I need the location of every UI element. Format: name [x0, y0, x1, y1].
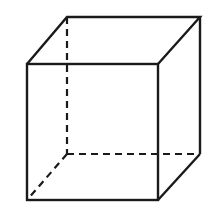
visible-edges	[27, 17, 200, 200]
front-face	[27, 64, 158, 200]
bottom-right-depth-edge	[158, 154, 200, 200]
top-face-edges	[27, 17, 200, 64]
cube-diagram	[0, 0, 216, 216]
hidden-edge-bottom-left-depth	[27, 154, 67, 200]
